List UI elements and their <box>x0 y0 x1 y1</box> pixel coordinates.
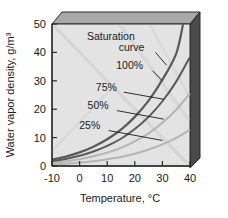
y-tick-label: 20 <box>34 103 46 115</box>
x-axis-tick-labels: -10010203040 <box>44 172 196 184</box>
y-axis-title: Water vapor density, g/m³ <box>4 32 16 157</box>
curve-annotation-label: 100% <box>116 59 143 71</box>
curve-annotation-label: curve <box>119 41 145 53</box>
chart-svg: 01020304050 -10010203040 Saturationcurve… <box>0 0 228 218</box>
x-tick-label: 40 <box>184 172 196 184</box>
curve-annotation-label: Saturation <box>87 30 135 42</box>
x-tick-label: 30 <box>156 172 168 184</box>
vapor-density-chart-figure: 01020304050 -10010203040 Saturationcurve… <box>0 0 228 218</box>
curve-annotation-label: 50% <box>88 99 109 111</box>
box-right-face <box>190 12 200 168</box>
x-tick-label: -10 <box>44 172 60 184</box>
x-tick-label: 20 <box>129 172 141 184</box>
y-tick-label: 30 <box>34 75 46 87</box>
y-tick-label: 40 <box>34 46 46 58</box>
y-axis-tick-labels: 01020304050 <box>34 18 46 172</box>
x-tick-label: 10 <box>101 172 113 184</box>
x-tick-label: 0 <box>77 172 83 184</box>
box-top-face <box>52 12 200 24</box>
curve-annotation-label: 25% <box>79 119 100 131</box>
y-tick-label: 0 <box>40 160 46 172</box>
curve-annotation-label: 75% <box>96 81 117 93</box>
x-axis-title: Temperature, °C <box>80 192 160 204</box>
y-tick-label: 10 <box>34 132 46 144</box>
y-tick-label: 50 <box>34 18 46 30</box>
